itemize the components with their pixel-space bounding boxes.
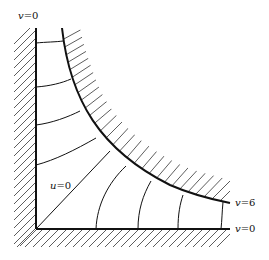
diagram-canvas (0, 0, 269, 260)
label-top-v0: v=0 (18, 11, 38, 21)
label-v6: v=6 (235, 198, 255, 208)
label-bottom-v0: v=0 (235, 224, 255, 234)
left-grid-curves (36, 41, 96, 165)
label-u0: u=0 (50, 181, 71, 191)
hyperbola-boundary (62, 28, 230, 203)
diagonal-line (36, 151, 110, 229)
